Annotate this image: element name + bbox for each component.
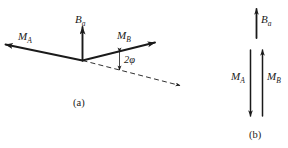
panel-b-label-mb-symbol: M	[267, 70, 276, 82]
panel-a-label-ba-symbol: B	[75, 13, 82, 25]
panel-a-label-ba: Ba	[75, 14, 85, 28]
panel-b-label-ma: MA	[231, 71, 245, 85]
panel-a-vector-mb	[83, 43, 156, 61]
panel-a-label-ma-subscript: A	[27, 36, 32, 45]
panel-a-label-ma-symbol: M	[18, 30, 27, 42]
panel-a-angle-label: 2φ	[124, 55, 135, 66]
panel-b-label-ma-subscript: A	[240, 76, 245, 85]
panel-b-label-ba: Ba	[261, 14, 271, 28]
panel-a-label-mb-symbol: M	[117, 29, 126, 41]
panel-a-caption: (a)	[73, 98, 85, 109]
panel-b-label-mb-subscript: B	[276, 76, 281, 85]
panel-b-label-ma-symbol: M	[231, 70, 240, 82]
panel-b-label-ba-subscript: a	[268, 19, 272, 28]
panel-a-label-ba-subscript: a	[82, 19, 86, 28]
panel-a-label-mb-subscript: B	[126, 35, 131, 44]
panel-a-label-ma: MA	[18, 31, 32, 45]
panel-b-label-ba-symbol: B	[261, 13, 268, 25]
panel-b-label-mb: MB	[267, 71, 281, 85]
figure-canvas	[0, 0, 288, 148]
panel-a-vector-ma	[6, 45, 83, 61]
panel-a-label-mb: MB	[117, 30, 131, 44]
figure-root: MA Ba MB 2φ (a) Ba MA MB (b)	[0, 0, 288, 148]
panel-b-caption: (b)	[249, 130, 261, 141]
